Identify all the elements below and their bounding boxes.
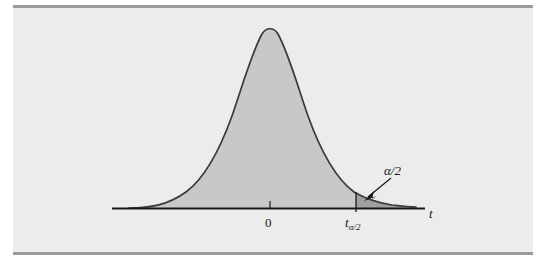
- axis-label: t: [429, 207, 433, 220]
- body-fill-region: [129, 29, 356, 208]
- figure-container: 0 tα/2 t α/2: [0, 0, 539, 260]
- critical-value-subscript: α/2: [349, 222, 361, 232]
- critical-value-label: tα/2: [345, 216, 361, 232]
- tail-area-label: α/2: [384, 164, 401, 177]
- origin-label: 0: [265, 216, 272, 229]
